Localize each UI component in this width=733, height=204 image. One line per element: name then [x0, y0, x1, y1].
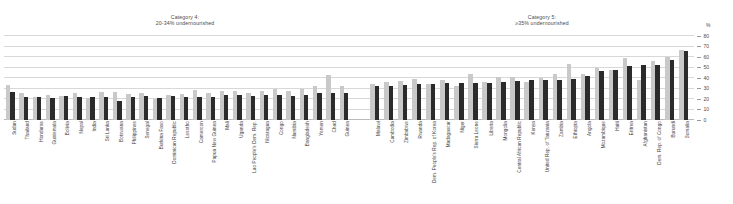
- y-tick-60: 60: [697, 55, 709, 60]
- y-axis: % 80706050403020100: [697, 22, 733, 126]
- bar-group: [665, 57, 674, 120]
- y-tick-label: 70: [704, 44, 710, 49]
- bar-dark: [487, 83, 492, 120]
- bar-dark: [277, 95, 281, 120]
- bar-group: [193, 90, 202, 120]
- y-axis-unit-label: %: [706, 22, 710, 28]
- category-label: Guatemala: [53, 121, 58, 144]
- category-label: Lao People's Dem. Rep.: [253, 121, 258, 173]
- category-label: Central African Republic: [518, 121, 523, 173]
- category-label: Rwanda: [419, 121, 424, 138]
- bar-dark: [304, 95, 308, 120]
- bar-dark: [431, 84, 436, 120]
- bar-group: [567, 64, 576, 120]
- bar-group: [496, 77, 505, 120]
- y-tick-label: 30: [704, 86, 710, 91]
- category-label: Zambia: [560, 121, 565, 137]
- y-tick-label: 50: [704, 65, 710, 70]
- bar-dark: [317, 93, 321, 120]
- y-tick-40: 40: [697, 76, 709, 81]
- bar-group: [33, 97, 42, 120]
- category-label: Angola: [588, 121, 593, 136]
- bar-group: [86, 97, 95, 120]
- category-label: Philippines: [133, 121, 138, 144]
- bar-dark: [389, 86, 394, 120]
- category-label: Dominican Republic: [173, 121, 178, 164]
- plot-area: [4, 36, 694, 120]
- y-tick-label: 60: [704, 55, 710, 60]
- bar-group: [623, 58, 632, 120]
- bar-group: [426, 84, 435, 120]
- category-label: India: [93, 121, 98, 131]
- category-label: Honduras: [40, 121, 45, 142]
- bar-group: [482, 82, 491, 120]
- category-label: Afghanistan: [644, 121, 649, 146]
- bar-group: [99, 92, 108, 120]
- bar-group: [233, 91, 242, 120]
- bar-group: [412, 79, 421, 120]
- bar-group: [637, 65, 646, 120]
- bar-group: [384, 82, 393, 120]
- bar-dark: [144, 96, 148, 120]
- bar-dark: [157, 98, 161, 120]
- bar-dark: [670, 60, 675, 120]
- bar-dark: [515, 81, 520, 120]
- bar-dark: [90, 97, 94, 120]
- category-label: Burkina Faso: [160, 121, 165, 149]
- bar-dark: [445, 83, 450, 120]
- bar-dark: [64, 96, 68, 120]
- category-label: United Rep. of Tanzania: [546, 121, 551, 172]
- bar-group: [260, 91, 269, 120]
- bar-group: [609, 70, 618, 120]
- category-label: Dem. Rep. of Congo: [658, 121, 663, 165]
- y-tick-70: 70: [697, 44, 709, 49]
- bar-group: [679, 50, 688, 120]
- category-label: Mozambique: [602, 121, 607, 148]
- bar-dark: [557, 80, 562, 120]
- bar-dark: [224, 95, 228, 120]
- category-label: Cambodia: [391, 121, 396, 143]
- bar-dark: [10, 92, 14, 120]
- bar-dark: [641, 65, 646, 120]
- bar-group: [595, 68, 604, 121]
- bar-dark: [197, 97, 201, 120]
- panel-title-category-4: Category 4: 20-34% undernourished: [110, 14, 260, 27]
- bar-dark: [50, 98, 54, 120]
- bar-group: [6, 85, 15, 120]
- bar-group: [246, 93, 255, 120]
- bar-dark: [403, 85, 408, 120]
- bar-dark: [571, 79, 576, 120]
- undernourishment-bar-chart: Category 4: 20-34% undernourished Catego…: [0, 0, 733, 204]
- bar-group: [510, 77, 519, 120]
- bar-group: [651, 61, 660, 120]
- bar-dark: [131, 97, 135, 120]
- bar-dark: [251, 96, 255, 120]
- y-tick-mark-icon: [697, 88, 701, 89]
- category-label: Lesotho: [186, 121, 191, 138]
- panel-title-line-2: ≥35% undernourished: [462, 20, 622, 26]
- category-label: Bangladesh: [306, 121, 311, 146]
- bar-group: [370, 84, 379, 120]
- category-label: Malawi: [377, 121, 382, 136]
- bar-dark: [543, 80, 548, 120]
- bar-dark: [684, 51, 689, 120]
- category-label: Congo: [280, 121, 285, 135]
- y-tick-10: 10: [697, 107, 709, 112]
- y-tick-label: 80: [704, 34, 710, 39]
- category-label: Thailand: [26, 121, 31, 139]
- y-tick-mark-icon: [697, 36, 701, 37]
- category-label: Dem. People's Rep. of Korea: [433, 121, 438, 183]
- bar-group: [326, 75, 335, 120]
- category-label: Senegal: [146, 121, 151, 139]
- bar-dark: [171, 96, 175, 120]
- bar-dark: [613, 70, 618, 120]
- bar-dark: [501, 82, 506, 120]
- y-tick-mark-icon: [697, 120, 701, 121]
- category-label: Botswana: [120, 121, 125, 142]
- bar-group: [539, 78, 548, 120]
- bar-group: [180, 94, 189, 120]
- bar-dark: [184, 97, 188, 120]
- bar-dark: [375, 86, 380, 120]
- category-label: Somalia: [686, 121, 691, 138]
- bar-dark: [585, 76, 590, 120]
